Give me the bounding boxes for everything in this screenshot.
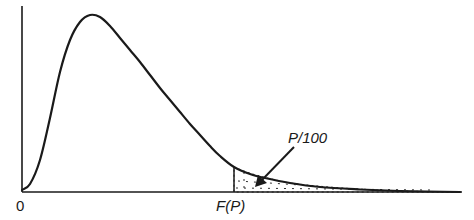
density-chart xyxy=(0,0,474,220)
tail-area-label: P/100 xyxy=(288,129,327,146)
density-curve xyxy=(22,15,460,192)
critical-value-label: F(P) xyxy=(216,197,245,214)
origin-label: 0 xyxy=(16,197,24,214)
annotation-arrow xyxy=(261,147,294,181)
